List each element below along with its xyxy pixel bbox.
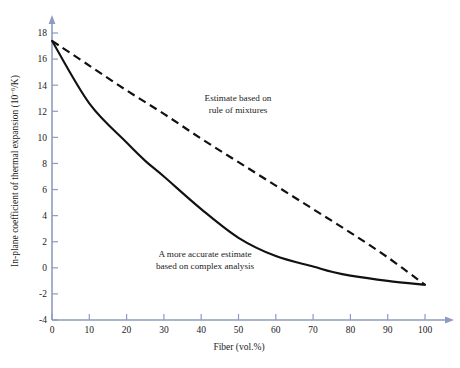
y-axis-arrow-icon [49, 15, 56, 24]
x-tick-label: 70 [308, 325, 318, 335]
x-tick-label: 60 [271, 325, 281, 335]
x-tick-label: 30 [159, 325, 169, 335]
x-tick-label: 80 [346, 325, 356, 335]
y-tick-label: 16 [38, 54, 48, 64]
y-tick-label: 4 [42, 211, 47, 221]
annotation-rule-of-mixtures-line: Estimate based on [205, 93, 272, 103]
y-axis-ticks [52, 33, 58, 320]
y-axis-tick-labels: -4-2024681012141618 [38, 28, 48, 325]
y-tick-label: 8 [42, 159, 47, 169]
y-tick-label: 18 [38, 28, 48, 38]
annotation-rule-of-mixtures-line: rule of mixtures [209, 105, 268, 115]
x-axis-title: Fiber (vol.%) [213, 342, 264, 353]
y-axis-title-prefix: In-plane coefficient of thermal expansio… [10, 95, 21, 267]
annotation-complex-analysis-line: A more accurate estimate [158, 249, 251, 259]
y-tick-label: 0 [42, 263, 47, 273]
annotation-complex-analysis: A more accurate estimatebased on complex… [156, 249, 255, 271]
x-tick-label: 20 [122, 325, 132, 335]
y-tick-label: 12 [38, 107, 48, 117]
y-tick-label: 6 [42, 185, 47, 195]
x-axis-arrow-icon [445, 317, 454, 324]
y-tick-label: 10 [38, 133, 48, 143]
x-tick-label: 50 [234, 325, 244, 335]
annotation-complex-analysis-line: based on complex analysis [156, 261, 255, 271]
thermal-expansion-chart: -4-2024681012141618 01020304050607080901… [0, 0, 460, 368]
y-tick-label: -2 [39, 289, 47, 299]
y-axis-title: In-plane coefficient of thermal expansio… [9, 75, 21, 267]
x-tick-label: 90 [383, 325, 393, 335]
x-tick-label: 10 [85, 325, 95, 335]
chart-container: -4-2024681012141618 01020304050607080901… [0, 0, 460, 368]
x-tick-label: 40 [196, 325, 206, 335]
y-tick-label: 2 [42, 237, 47, 247]
x-tick-label: 100 [418, 325, 433, 335]
x-axis-ticks [52, 314, 425, 320]
x-tick-label: 0 [50, 325, 55, 335]
annotation-rule-of-mixtures: Estimate based onrule of mixtures [205, 93, 272, 115]
y-tick-label: 14 [38, 81, 48, 91]
x-axis-tick-labels: 0102030405060708090100 [50, 325, 433, 335]
y-tick-label: -4 [39, 315, 47, 325]
y-axis-title-suffix: /K) [10, 75, 21, 88]
